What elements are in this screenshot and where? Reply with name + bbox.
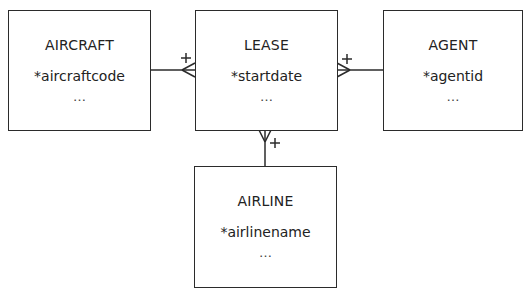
key-attribute: *airlinename bbox=[195, 224, 336, 240]
relationship-agent-lease bbox=[337, 54, 383, 77]
more-attributes: … bbox=[384, 89, 522, 104]
entity-name: AIRLINE bbox=[195, 193, 336, 209]
key-attribute: *aircraftcode bbox=[9, 68, 150, 84]
entity-name: AIRCRAFT bbox=[9, 37, 150, 53]
entity-lease[interactable]: LEASE *startdate … bbox=[195, 10, 338, 131]
more-attributes: … bbox=[9, 89, 150, 104]
key-attribute: *agentid bbox=[384, 68, 522, 84]
entity-aircraft[interactable]: AIRCRAFT *aircraftcode … bbox=[8, 10, 151, 131]
key-attribute: *startdate bbox=[196, 68, 337, 84]
entity-agent[interactable]: AGENT *agentid … bbox=[383, 10, 523, 131]
entity-airline[interactable]: AIRLINE *airlinename … bbox=[194, 166, 337, 288]
entity-name: LEASE bbox=[196, 37, 337, 53]
more-attributes: … bbox=[195, 245, 336, 260]
relationship-airline-lease bbox=[259, 130, 280, 166]
entity-name: AGENT bbox=[384, 37, 522, 53]
more-attributes: … bbox=[196, 89, 337, 104]
relationship-aircraft-lease bbox=[150, 53, 195, 77]
